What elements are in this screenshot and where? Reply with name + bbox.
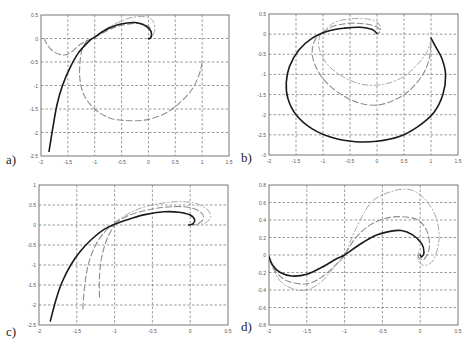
x-tick-label: -1.5 xyxy=(72,328,81,334)
x-tick-label: 0.5 xyxy=(455,328,462,334)
x-tick-label: -0.5 xyxy=(346,158,355,164)
panel-a: a) -2-1.5-1-0.500.511.50.50-0.5-1-1.5-2-… xyxy=(6,12,233,167)
x-tick-label: -2 xyxy=(37,328,42,334)
x-tick-label: 1 xyxy=(430,158,433,164)
y-tick-label: -1 xyxy=(32,262,37,268)
x-tick-label: 0 xyxy=(147,159,150,165)
y-tick-label: 0 xyxy=(33,222,36,228)
x-tick-label: 0 xyxy=(419,328,422,334)
x-tick-label: 1 xyxy=(201,159,204,165)
panel-b: b) -2-1.5-1-0.500.511.50.50-0.5-1-1.5-2-… xyxy=(241,11,462,165)
y-tick-label: -0.8 xyxy=(257,322,266,328)
panel-label-d: d) xyxy=(241,319,252,334)
y-tick-label: 0.2 xyxy=(259,235,266,241)
figure-canvas: a) -2-1.5-1-0.500.511.50.50-0.5-1-1.5-2-… xyxy=(0,0,473,345)
y-tick-label: 0 xyxy=(35,36,38,42)
x-tick-label: 1.5 xyxy=(455,158,462,164)
series-solid xyxy=(50,212,194,321)
y-tick-label: -2 xyxy=(34,130,39,136)
y-tick-label: -0.5 xyxy=(27,242,36,248)
series-dashdot xyxy=(95,17,155,39)
series-solid xyxy=(49,22,152,151)
x-tick-label: -1 xyxy=(92,159,97,165)
y-tick-label: -0.5 xyxy=(257,51,266,57)
y-tick-label: -0.5 xyxy=(29,59,38,65)
y-tick-label: -0.2 xyxy=(257,270,266,276)
x-tick-label: 0.5 xyxy=(225,328,232,334)
x-tick-label: 0.5 xyxy=(172,159,179,165)
y-tick-label: -1.5 xyxy=(27,282,36,288)
y-tick-label: 0.5 xyxy=(259,11,266,17)
panel-c: c) -2-1.5-1-0.500.510.50-0.5-1-1.5-2-2.5 xyxy=(6,182,232,339)
y-tick-label: 1 xyxy=(33,182,36,188)
x-tick-label: -1 xyxy=(342,328,347,334)
y-tick-label: -1.5 xyxy=(257,92,266,98)
y-tick-label: 0 xyxy=(263,31,266,37)
panel-label-c: c) xyxy=(6,324,16,339)
series-dashdot xyxy=(320,18,381,34)
series-solid xyxy=(269,230,424,276)
y-tick-label: 0.6 xyxy=(259,200,266,206)
y-tick-label: -0.6 xyxy=(257,305,266,311)
y-tick-label: -2 xyxy=(32,302,37,308)
y-tick-label: 0.8 xyxy=(259,182,266,188)
series-dashdot-inner xyxy=(318,34,431,85)
axes-box xyxy=(39,185,228,325)
y-tick-label: 0.5 xyxy=(31,12,38,18)
x-tick-label: -1.5 xyxy=(302,328,311,334)
y-tick-label: 0 xyxy=(263,252,266,258)
y-tick-label: 0.4 xyxy=(259,217,266,223)
panel-d: d) -2-1.5-1-0.500.50.80.60.40.20-0.2-0.4… xyxy=(241,182,462,334)
x-tick-label: -1.5 xyxy=(64,159,73,165)
series-dashed xyxy=(269,217,430,284)
panel-label-a: a) xyxy=(6,152,16,167)
y-tick-label: -1 xyxy=(34,83,39,89)
y-tick-label: -2 xyxy=(262,112,267,118)
x-tick-label: -0.5 xyxy=(117,159,126,165)
panel-label-b: b) xyxy=(241,150,252,165)
y-tick-label: -2.5 xyxy=(27,322,36,328)
x-tick-label: -0.5 xyxy=(378,328,387,334)
x-tick-label: 0.5 xyxy=(401,158,408,164)
x-tick-label: -1 xyxy=(321,158,326,164)
series-dashed xyxy=(44,23,152,55)
y-tick-label: -1.5 xyxy=(29,106,38,112)
x-tick-label: -1.5 xyxy=(292,158,301,164)
x-tick-label: -2 xyxy=(267,328,272,334)
y-tick-label: -2.5 xyxy=(29,153,38,159)
y-tick-label: -0.4 xyxy=(257,287,266,293)
x-tick-label: -2 xyxy=(39,159,44,165)
y-tick-label: -1 xyxy=(262,71,267,77)
x-tick-label: 0 xyxy=(376,158,379,164)
x-tick-label: 0 xyxy=(189,328,192,334)
series-dashed xyxy=(312,32,431,105)
y-tick-label: 0.5 xyxy=(29,202,36,208)
y-tick-label: -3 xyxy=(262,152,267,158)
x-tick-label: -2 xyxy=(267,158,272,164)
x-tick-label: -1 xyxy=(112,328,117,334)
x-tick-label: -0.5 xyxy=(148,328,157,334)
series-dashed-1 xyxy=(83,224,115,309)
x-tick-label: 1.5 xyxy=(226,159,233,165)
y-tick-label: -2.5 xyxy=(257,132,266,138)
